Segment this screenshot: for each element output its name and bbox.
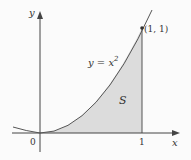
y-axis-arrow-icon [37,11,43,19]
x-axis-arrow-icon [172,130,180,136]
region-s [40,28,142,133]
x-one-tick-label: 1 [139,137,145,147]
point-label: (1, 1) [144,24,168,34]
parabola-area-diagram: y x 0 1 (1, 1) y = x2 S [0,0,191,160]
region-label: S [119,94,127,107]
curve-label: y = x2 [87,55,119,68]
y-axis-label: y [28,7,35,18]
x-axis-label: x [172,137,178,148]
origin-tick-label: 0 [30,137,36,147]
